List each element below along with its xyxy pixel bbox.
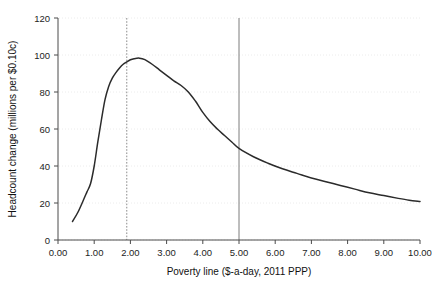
x-tick-label-8.00: 8.00 [338,247,357,258]
y-tick-label-80: 80 [39,87,50,98]
y-axis-title: Headcount change (millions per $0.10c) [7,41,18,218]
y-tick-label-100: 100 [34,50,50,61]
y-tick-label-0: 0 [45,235,50,246]
x-tick-label-10.00: 10.00 [408,247,432,258]
x-tick-label-5.00: 5.00 [230,247,249,258]
y-tick-label-20: 20 [39,198,50,209]
headcount-change-line-chart: 0.001.002.003.004.005.006.007.008.009.00… [0,0,436,284]
x-axis-ticks-group: 0.001.002.003.004.005.006.007.008.009.00… [49,240,432,258]
x-tick-label-0.00: 0.00 [49,247,68,258]
y-axis-ticks-group: 020406080100120 [34,13,58,246]
x-tick-label-1.00: 1.00 [85,247,104,258]
y-tick-label-60: 60 [39,124,50,135]
x-tick-label-7.00: 7.00 [302,247,321,258]
x-tick-label-6.00: 6.00 [266,247,285,258]
x-axis-title: Poverty line ($-a-day, 2011 PPP) [167,266,312,277]
x-tick-label-3.00: 3.00 [157,247,176,258]
x-tick-label-2.00: 2.00 [121,247,140,258]
x-tick-label-9.00: 9.00 [375,247,394,258]
y-tick-label-40: 40 [39,161,50,172]
x-tick-label-4.00: 4.00 [194,247,213,258]
chart-figure: 0.001.002.003.004.005.006.007.008.009.00… [0,0,436,284]
data-series-headcount-change [72,58,420,221]
y-tick-label-120: 120 [34,13,50,24]
